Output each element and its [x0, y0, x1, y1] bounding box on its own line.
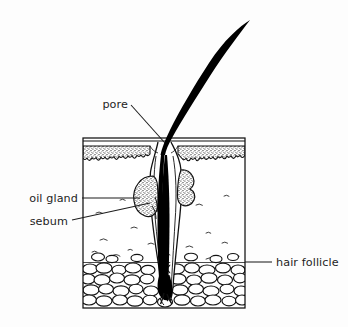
label-sebum: sebum — [30, 215, 68, 228]
label-oil-gland: oil gland — [29, 192, 78, 205]
label-hair-follicle: hair follicle — [276, 256, 339, 269]
pore-leader — [131, 105, 165, 143]
diagram-canvas: pore oil gland sebum hair follicle — [0, 0, 348, 327]
label-pore: pore — [102, 98, 128, 111]
sebaceous-gland-right — [178, 170, 195, 206]
